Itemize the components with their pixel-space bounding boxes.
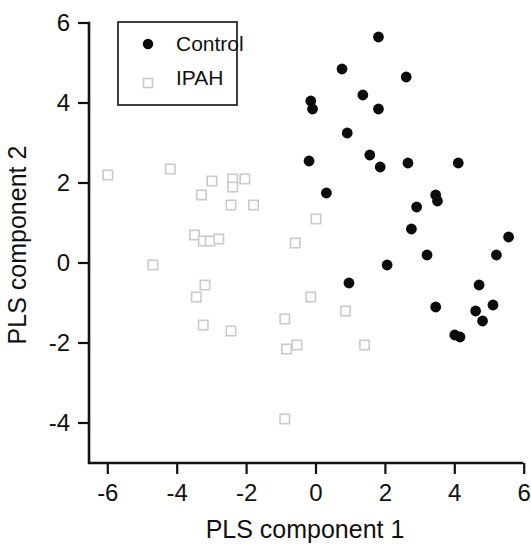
data-point-control: [491, 250, 502, 261]
data-point-ipah: [280, 314, 289, 323]
data-point-ipah: [249, 200, 258, 209]
data-point-ipah: [290, 238, 299, 247]
data-point-control: [453, 158, 464, 169]
data-point-control: [403, 158, 414, 169]
x-tick-label: -2: [236, 479, 257, 506]
data-point-ipah: [226, 326, 235, 335]
scatter-plot-figure: -4-20246 -6-4-20246 Control IPAH PLS com…: [0, 0, 531, 548]
data-point-control: [342, 128, 353, 139]
data-point-ipah: [280, 414, 289, 423]
x-axis-ticks: [108, 463, 524, 474]
y-axis-title: PLS component 2: [3, 146, 31, 345]
data-point-ipah: [103, 170, 112, 179]
x-tick-label: 0: [309, 479, 322, 506]
legend-marker-control-icon: [143, 39, 153, 49]
legend: Control IPAH: [118, 22, 244, 105]
y-axis-ticks: [78, 23, 89, 423]
data-point-control: [432, 196, 443, 207]
data-point-ipah: [341, 306, 350, 315]
data-point-ipah: [192, 292, 201, 301]
y-tick-label: 0: [57, 249, 70, 276]
data-point-ipah: [200, 280, 209, 289]
series-control-points: [304, 32, 514, 343]
data-point-control: [373, 104, 384, 115]
data-point-ipah: [228, 182, 237, 191]
data-point-ipah: [282, 344, 291, 353]
x-tick-label: 4: [448, 479, 461, 506]
data-point-ipah: [197, 190, 206, 199]
x-axis-title: PLS component 1: [206, 515, 405, 543]
data-point-control: [422, 250, 433, 261]
data-point-control: [364, 150, 375, 161]
data-point-ipah: [207, 176, 216, 185]
y-tick-label: 6: [57, 9, 70, 36]
x-tick-label: 2: [379, 479, 392, 506]
legend-label-ipah: IPAH: [176, 66, 223, 89]
x-tick-label: -6: [97, 479, 118, 506]
y-tick-label: -2: [49, 329, 70, 356]
data-point-control: [307, 104, 318, 115]
data-point-ipah: [199, 320, 208, 329]
data-point-control: [357, 90, 368, 101]
y-tick-label: 2: [57, 169, 70, 196]
x-axis-tick-labels: -6-4-20246: [97, 479, 531, 506]
data-point-control: [411, 202, 422, 213]
y-tick-label: 4: [57, 89, 70, 116]
data-point-control: [455, 332, 466, 343]
data-point-control: [382, 260, 393, 271]
data-point-control: [477, 316, 488, 327]
data-point-control: [406, 224, 417, 235]
data-point-ipah: [292, 340, 301, 349]
legend-marker-ipah-icon: [144, 79, 153, 88]
data-point-control: [337, 64, 348, 75]
legend-label-control: Control: [176, 32, 244, 55]
data-point-control: [488, 300, 499, 311]
series-ipah-points: [103, 164, 369, 423]
x-tick-label: 6: [518, 479, 531, 506]
data-point-control: [304, 156, 315, 167]
data-point-ipah: [360, 340, 369, 349]
data-point-control: [430, 302, 441, 313]
data-point-control: [344, 278, 355, 289]
y-tick-label: -4: [49, 409, 70, 436]
plot-canvas: -4-20246 -6-4-20246 Control IPAH PLS com…: [0, 0, 531, 548]
x-tick-label: -4: [167, 479, 188, 506]
y-axis-tick-labels: -4-20246: [49, 9, 70, 436]
data-point-control: [373, 32, 384, 43]
data-point-ipah: [214, 234, 223, 243]
data-point-control: [470, 306, 481, 317]
data-point-ipah: [166, 164, 175, 173]
data-point-control: [401, 72, 412, 83]
data-point-ipah: [148, 260, 157, 269]
data-point-ipah: [306, 292, 315, 301]
data-point-control: [321, 188, 332, 199]
data-point-control: [375, 162, 386, 173]
data-point-control: [503, 232, 514, 243]
data-point-ipah: [311, 214, 320, 223]
data-point-ipah: [226, 200, 235, 209]
data-point-control: [474, 280, 485, 291]
data-point-ipah: [240, 174, 249, 183]
